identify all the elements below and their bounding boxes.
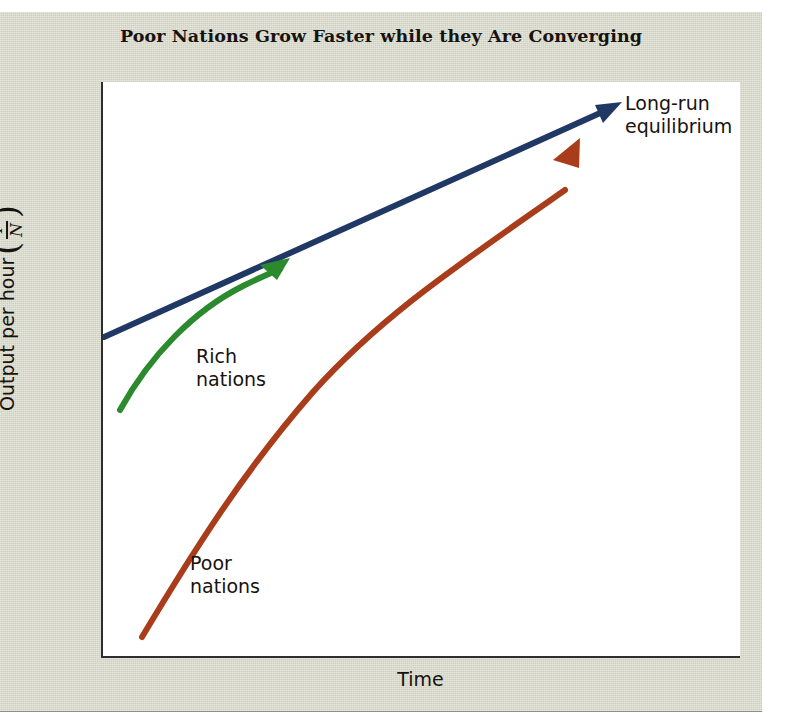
poor-nations-arrowhead xyxy=(553,138,580,168)
long-run-equilibrium-arrowhead xyxy=(595,102,622,123)
y-axis-fraction-denominator: N xyxy=(9,221,25,239)
figure-container: Poor Nations Grow Faster while they Are … xyxy=(0,0,792,728)
y-axis-label: Output per hour ( Y N ) xyxy=(0,138,25,478)
long-run-equilibrium-line xyxy=(104,109,609,337)
series-long-run-equilibrium xyxy=(104,102,622,337)
y-axis-label-text: Output per hour xyxy=(0,258,18,411)
y-axis-close-paren: ) xyxy=(0,205,21,218)
x-axis-label: Time xyxy=(101,668,740,690)
long-run-equilibrium-label: Long-run equilibrium xyxy=(625,92,732,138)
poor-nations-label: Poor nations xyxy=(190,552,260,598)
y-axis-open-paren: ( xyxy=(0,242,21,255)
y-axis-fraction-numerator: Y xyxy=(0,223,5,238)
y-axis-fraction: Y N xyxy=(0,221,25,239)
chart-title: Poor Nations Grow Faster while they Are … xyxy=(0,26,762,46)
rich-nations-label: Rich nations xyxy=(196,345,266,391)
